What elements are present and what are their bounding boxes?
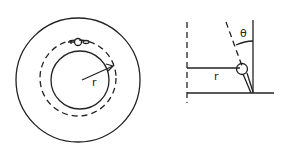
angle-label: θ: [240, 27, 247, 40]
orbiting-object-icon: [68, 39, 89, 46]
diagram-canvas: r r θ: [0, 0, 284, 160]
ball-icon: [237, 64, 248, 75]
inner-circle: [51, 51, 109, 109]
outer-circle: [16, 18, 140, 142]
side-view: [187, 20, 274, 103]
angle-arc: [236, 41, 253, 45]
top-view: [16, 18, 140, 142]
left-radius-label: r: [92, 76, 97, 89]
right-radius-label: r: [214, 70, 219, 83]
